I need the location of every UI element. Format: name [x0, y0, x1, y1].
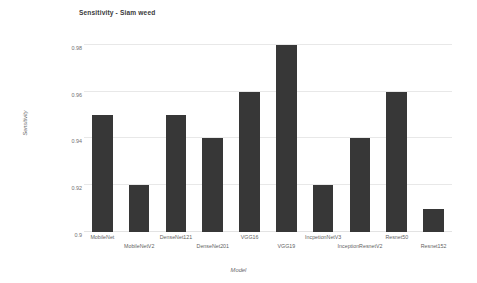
x-tick-label: DenseNet201	[197, 243, 229, 249]
x-tick-label: MobileNetV2	[124, 243, 154, 249]
x-tick-label: Resnet152	[421, 243, 447, 249]
x-axis-tick-labels: MobileNetMobileNetV2DenseNet121DenseNet2…	[84, 232, 452, 260]
bar	[129, 185, 150, 232]
bar	[239, 92, 260, 232]
bars-group	[84, 33, 452, 232]
bar	[276, 45, 297, 232]
bar	[423, 209, 444, 232]
bar	[92, 115, 113, 232]
chart-title: Sensitivity - Siam weed	[79, 9, 155, 16]
x-tick-label: VGG19	[278, 243, 296, 249]
bar	[202, 138, 223, 232]
x-tick-label: VGG16	[241, 234, 259, 240]
x-tick-label: Resnet50	[385, 234, 408, 240]
bar	[313, 185, 334, 232]
y-axis-title: Sensitivity	[22, 93, 28, 153]
plot-area	[84, 33, 452, 232]
x-tick-label: DenseNet121	[160, 234, 192, 240]
x-tick-label: InceptionResnetV2	[338, 243, 383, 249]
sensitivity-bar-chart: Sensitivity - Siam weed Sensitivity 0.98…	[0, 0, 477, 283]
x-axis-title: Model	[0, 267, 477, 273]
x-tick-label: MobileNet	[90, 234, 114, 240]
bar	[166, 115, 187, 232]
bar	[386, 92, 407, 232]
x-tick-label: IncpetionNetV3	[305, 234, 341, 240]
y-axis-tick-labels: 0.980.960.940.920.9	[56, 33, 82, 232]
bar	[350, 138, 371, 232]
